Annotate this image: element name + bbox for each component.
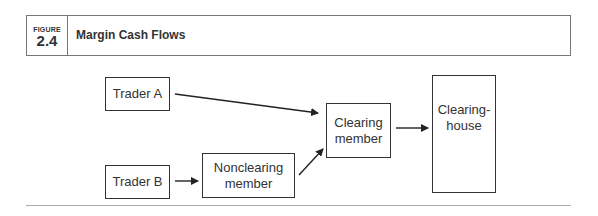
node-clearinghouse: Clearing- house — [432, 75, 496, 193]
arrow-nonclearing-to-clearing-member — [299, 149, 323, 175]
node-trader-a: Trader A — [105, 77, 170, 111]
arrow-trader-a-to-clearing-member — [175, 94, 318, 113]
bottom-rule — [26, 205, 571, 206]
diagram-arrows — [0, 0, 598, 216]
node-clearing-member: Clearing member — [326, 103, 391, 158]
node-trader-b: Trader B — [105, 165, 170, 199]
node-nonclearing-member: Nonclearing member — [202, 153, 295, 198]
